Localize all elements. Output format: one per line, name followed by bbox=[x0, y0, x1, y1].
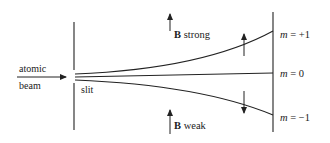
beam-label: beam bbox=[19, 80, 41, 91]
b-weak-label: B weak bbox=[174, 120, 207, 131]
beam-m-0 bbox=[75, 73, 273, 77]
slit-label: slit bbox=[81, 84, 93, 95]
atomic-label: atomic bbox=[19, 63, 47, 74]
beam-m-minus-1 bbox=[75, 80, 273, 115]
stern-gerlach-diagram: atomic beam slit B strong B weak m = +1 … bbox=[0, 0, 330, 143]
m-minus-1-label: m = −1 bbox=[280, 112, 310, 123]
m-0-label: m = 0 bbox=[280, 68, 304, 79]
m-plus-1-label: m = +1 bbox=[280, 29, 310, 40]
b-strong-label: B strong bbox=[174, 29, 211, 40]
